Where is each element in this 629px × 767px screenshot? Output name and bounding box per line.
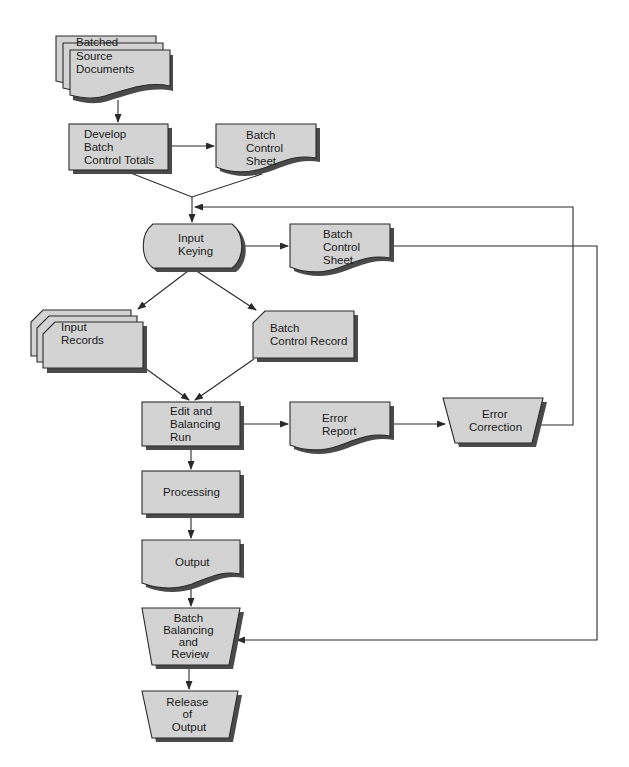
node-processing: Processing [142,471,244,518]
edge-control-record-to-edit [195,359,254,400]
edges [118,100,597,689]
edge-records-to-edit [145,368,189,400]
node-release-of-output: Release of Output [142,691,242,742]
node-batch-control-sheet-1: Batch Control Sheet [216,124,320,176]
node-batched-source-documents: Batched Source Documents [56,36,173,103]
edge-keying-to-control-record [192,268,256,310]
node-output: Output [142,540,244,592]
node-batch-balancing-and-review: Batch Balancing and Review [142,608,244,669]
node-edit-and-balancing-run: Edit and Balancing Run [142,402,244,450]
node-input-keying: Input Keying [143,224,246,272]
node-batch-control-sheet-2: Batch Control Sheet [290,224,394,276]
node-batch-control-record: Batch Control Record [253,311,358,362]
edge-keying-to-records [138,268,192,309]
node-error-correction: Error Correction [443,398,547,447]
node-develop-batch-control-totals: Develop Batch Control Totals [69,124,172,174]
node-error-report: Error Report [290,402,394,454]
label-output: Output [175,556,210,568]
node-input-records: Input Records [31,310,147,373]
label-processing: Processing [163,486,220,498]
batch-control-flowchart: Batched Source Documents Develop Batch C… [0,0,629,767]
